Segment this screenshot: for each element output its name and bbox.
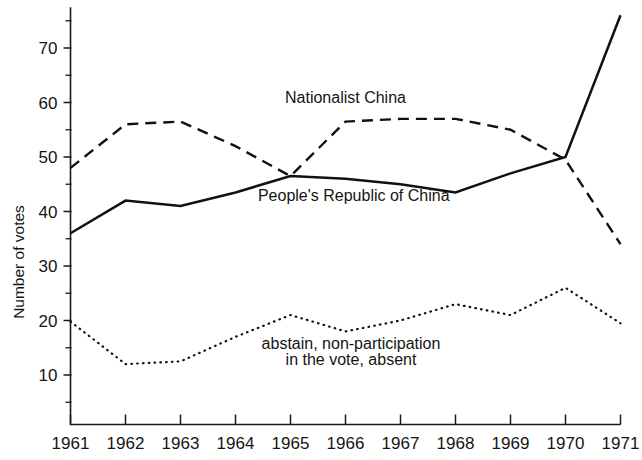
y-tick-label-30: 30 xyxy=(39,257,58,276)
series-label-nationalist-china: Nationalist China xyxy=(285,89,406,106)
x-tick-label-1962: 1962 xyxy=(107,434,145,453)
x-tick-label-1961: 1961 xyxy=(52,434,90,453)
series-label-peoples-republic-of-china: People's Republic of China xyxy=(258,187,450,204)
x-tick-label-1968: 1968 xyxy=(437,434,475,453)
x-tick-label-1963: 1963 xyxy=(162,434,200,453)
y-axis-title: Number of votes xyxy=(10,205,27,319)
series-label-abstain-line2: in the vote, absent xyxy=(286,351,417,368)
x-tick-label-1967: 1967 xyxy=(382,434,420,453)
x-tick-label-1971: 1971 xyxy=(602,434,640,453)
y-tick-label-10: 10 xyxy=(39,366,58,385)
y-tick-label-70: 70 xyxy=(39,39,58,58)
y-tick-label-60: 60 xyxy=(39,94,58,113)
y-tick-label-20: 20 xyxy=(39,312,58,331)
x-axis-tick-labels: 1961196219631964196519661967196819691970… xyxy=(52,434,640,453)
y-tick-label-50: 50 xyxy=(39,148,58,167)
chart-container: 10203040506070 1961196219631964196519661… xyxy=(0,0,642,460)
series-annotations: Nationalist China People's Republic of C… xyxy=(258,89,450,369)
series-label-abstain-line1: abstain, non-participation xyxy=(262,335,441,352)
y-axis-tick-labels: 10203040506070 xyxy=(39,39,58,385)
x-tick-label-1969: 1969 xyxy=(492,434,530,453)
x-tick-label-1964: 1964 xyxy=(217,434,255,453)
x-tick-label-1966: 1966 xyxy=(327,434,365,453)
series-line-1 xyxy=(71,119,621,244)
x-axis-ticks xyxy=(71,415,621,425)
x-tick-label-1965: 1965 xyxy=(272,434,310,453)
y-tick-label-40: 40 xyxy=(39,203,58,222)
x-tick-label-1970: 1970 xyxy=(547,434,585,453)
votes-line-chart: 10203040506070 1961196219631964196519661… xyxy=(0,0,642,460)
